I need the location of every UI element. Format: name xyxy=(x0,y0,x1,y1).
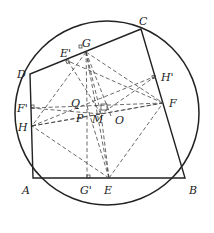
label-h-prime: H' xyxy=(160,71,174,84)
label-e: E xyxy=(103,184,112,197)
right-angle-markers xyxy=(31,45,156,178)
label-f-prime: F' xyxy=(16,102,28,115)
label-c: C xyxy=(139,15,148,28)
label-g: G xyxy=(82,37,91,50)
label-d: D xyxy=(16,68,26,81)
label-f: F xyxy=(168,97,177,110)
label-m: M xyxy=(91,113,104,126)
label-o: O xyxy=(115,114,124,127)
label-e-prime: E' xyxy=(59,47,71,60)
label-q: Q xyxy=(71,97,80,110)
label-a: A xyxy=(21,184,30,197)
geometry-diagram: A B C D E F G H E' F' G' H' Q P M O xyxy=(0,0,214,233)
label-g-prime: G' xyxy=(80,184,92,197)
label-b: B xyxy=(188,184,197,197)
label-h: H xyxy=(17,121,28,134)
label-p: P xyxy=(75,112,84,125)
